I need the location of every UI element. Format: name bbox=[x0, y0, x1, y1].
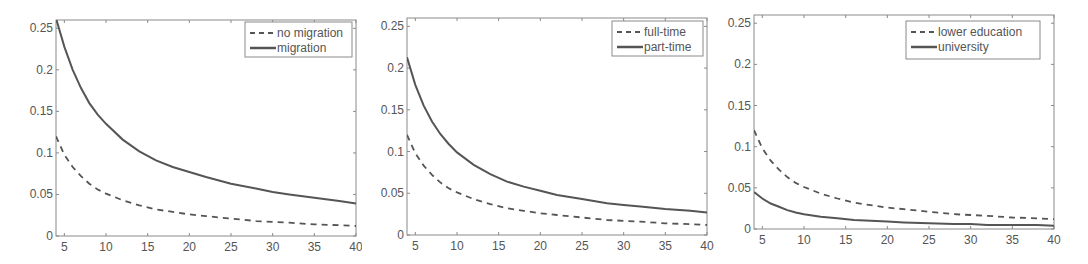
x-tick-label: 20 bbox=[881, 233, 895, 247]
legend-label-dashed: full-time bbox=[644, 25, 686, 39]
x-tick-label: 25 bbox=[224, 240, 238, 254]
x-tick-label: 20 bbox=[534, 239, 548, 253]
y-tick-label: 0.15 bbox=[728, 99, 752, 113]
x-tick-label: 5 bbox=[61, 240, 68, 254]
x-tick-label: 10 bbox=[99, 240, 113, 254]
y-tick-label: 0.2 bbox=[36, 63, 53, 77]
x-tick-label: 30 bbox=[964, 233, 978, 247]
legend-label-solid: migration bbox=[277, 41, 326, 55]
legend-label-dashed: no migration bbox=[277, 26, 343, 40]
x-tick-label: 15 bbox=[839, 233, 853, 247]
y-tick-label: 0 bbox=[397, 228, 404, 242]
y-tick-label: 0.25 bbox=[728, 16, 752, 30]
y-tick-label: 0.05 bbox=[30, 187, 54, 201]
x-tick-label: 5 bbox=[759, 233, 766, 247]
x-tick-label: 35 bbox=[308, 240, 322, 254]
x-tick-label: 30 bbox=[617, 239, 631, 253]
x-tick-label: 40 bbox=[700, 239, 714, 253]
x-tick-label: 40 bbox=[1047, 233, 1061, 247]
legend: full-timepart-time bbox=[612, 21, 703, 56]
legend: lower educationuniversity bbox=[906, 21, 1040, 59]
y-tick-label: 0.25 bbox=[381, 19, 405, 33]
x-tick-label: 15 bbox=[492, 239, 506, 253]
y-tick-label: 0 bbox=[46, 229, 53, 243]
y-tick-label: 0.1 bbox=[36, 146, 53, 160]
x-tick-label: 25 bbox=[575, 239, 589, 253]
y-tick-label: 0.2 bbox=[734, 57, 751, 71]
chart-panel-education: 51015202530354000.050.10.150.20.25lower … bbox=[724, 0, 1088, 264]
y-tick-label: 0 bbox=[744, 222, 751, 236]
x-tick-label: 35 bbox=[659, 239, 673, 253]
y-tick-label: 0.15 bbox=[30, 104, 54, 118]
legend-label-dashed: lower education bbox=[938, 25, 1022, 39]
legend-label-solid: part-time bbox=[644, 40, 692, 54]
x-tick-label: 15 bbox=[141, 240, 155, 254]
x-tick-label: 25 bbox=[922, 233, 936, 247]
chart-panel-migration: 51015202530354000.050.10.150.20.25no mig… bbox=[0, 0, 362, 264]
x-tick-label: 40 bbox=[349, 240, 362, 254]
x-tick-label: 20 bbox=[183, 240, 197, 254]
x-tick-label: 35 bbox=[1006, 233, 1020, 247]
y-tick-label: 0.25 bbox=[30, 21, 54, 35]
x-tick-label: 10 bbox=[450, 239, 464, 253]
y-tick-label: 0.05 bbox=[381, 186, 405, 200]
legend-label-solid: university bbox=[938, 40, 989, 54]
y-tick-label: 0.05 bbox=[728, 181, 752, 195]
y-tick-label: 0.1 bbox=[387, 145, 404, 159]
x-tick-label: 5 bbox=[412, 239, 419, 253]
y-tick-label: 0.1 bbox=[734, 140, 751, 154]
x-tick-label: 30 bbox=[266, 240, 280, 254]
y-tick-label: 0.15 bbox=[381, 103, 405, 117]
y-tick-label: 0.2 bbox=[387, 61, 404, 75]
chart-panel-employment: 51015202530354000.050.10.150.20.25full-t… bbox=[362, 0, 724, 264]
x-tick-label: 10 bbox=[797, 233, 811, 247]
legend: no migrationmigration bbox=[245, 22, 352, 57]
